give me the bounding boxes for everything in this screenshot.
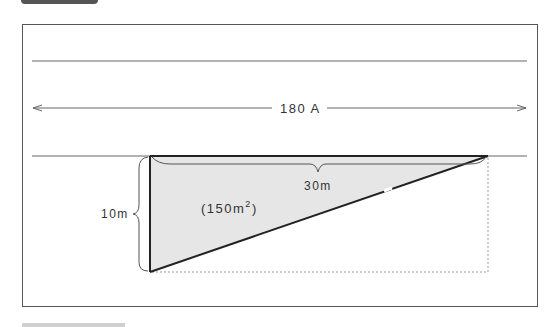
road-width-label: 180 A (280, 101, 321, 116)
footer-bar (22, 323, 125, 327)
height-brace (133, 157, 148, 271)
height-label: 10m (101, 207, 129, 221)
length-label: 30m (304, 179, 332, 193)
land-diagram: 180 A 30m 10m (150m2) (0, 0, 560, 327)
